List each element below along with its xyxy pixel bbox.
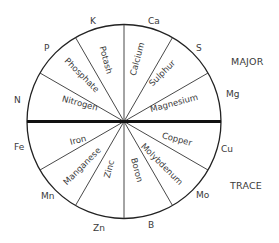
- segment-label-zinc: Zinc: [102, 159, 116, 180]
- spokes-major: [40, 25, 208, 122]
- segment-label-boron: Boron: [129, 157, 145, 184]
- symbol-zn: Zn: [93, 223, 105, 233]
- major-segment-labels: Nitrogen Phosphate Potash Calcium Sulphu…: [61, 41, 199, 114]
- segment-label-phosphate: Phosphate: [63, 56, 102, 95]
- segment-label-magnesium: Magnesium: [149, 92, 199, 114]
- segment-label-potash: Potash: [97, 45, 114, 75]
- segment-label-manganese: Manganese: [61, 145, 103, 187]
- symbol-b: B: [148, 220, 154, 230]
- segment-label-calcium: Calcium: [128, 41, 147, 77]
- symbol-mg: Mg: [226, 89, 239, 99]
- symbol-cu: Cu: [221, 144, 233, 154]
- segment-label-molybdenum: Molybdenum: [139, 141, 185, 187]
- symbol-fe: Fe: [14, 142, 25, 152]
- symbol-n: N: [14, 95, 21, 105]
- nutrient-wheel-diagram: Nitrogen Phosphate Potash Calcium Sulphu…: [0, 0, 279, 243]
- segment-label-iron: Iron: [69, 133, 87, 147]
- symbol-mn: Mn: [41, 191, 54, 201]
- symbol-mo: Mo: [196, 190, 210, 200]
- symbol-p: P: [44, 43, 50, 53]
- segment-label-sulphur: Sulphur: [147, 58, 178, 89]
- symbol-s: S: [196, 43, 202, 53]
- element-symbols: N P K Ca S Mg Fe Mn Zn B Mo Cu: [14, 16, 239, 233]
- symbol-ca: Ca: [148, 16, 160, 26]
- trace-segment-labels: Iron Manganese Zinc Boron Molybdenum Cop…: [61, 130, 193, 187]
- symbol-k: K: [90, 16, 97, 26]
- group-label-major: MAJOR: [231, 56, 264, 67]
- group-label-trace: TRACE: [229, 180, 262, 191]
